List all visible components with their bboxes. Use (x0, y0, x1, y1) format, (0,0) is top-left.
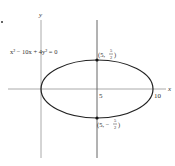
top-point-dot (95, 58, 98, 61)
tick-10-label: 10 (154, 92, 162, 100)
tick-5-label: 5 (99, 92, 103, 100)
corner-marker (1, 21, 3, 23)
bottom-point-dot (95, 116, 98, 119)
svg-text:5: 5 (110, 48, 113, 53)
y-axis-label: y (38, 11, 43, 19)
x-axis-label: x (167, 85, 172, 93)
ellipse-diagram: y x 5 10 x² − 10x + 4y² = 0 (5, 5 2 ) (5… (0, 0, 175, 166)
svg-text:(5,: (5, (98, 51, 105, 59)
equation-label: x² − 10x + 4y² = 0 (10, 48, 57, 55)
svg-text:2: 2 (114, 125, 116, 130)
bottom-point-label: (5, − 5 2 ) (97, 118, 120, 130)
svg-text:): ) (118, 121, 120, 129)
svg-text:2: 2 (110, 55, 112, 60)
top-point-label: (5, 5 2 ) (98, 48, 116, 60)
svg-text:5: 5 (114, 118, 117, 123)
svg-text:): ) (114, 51, 116, 59)
svg-text:(5, −: (5, − (97, 121, 110, 129)
